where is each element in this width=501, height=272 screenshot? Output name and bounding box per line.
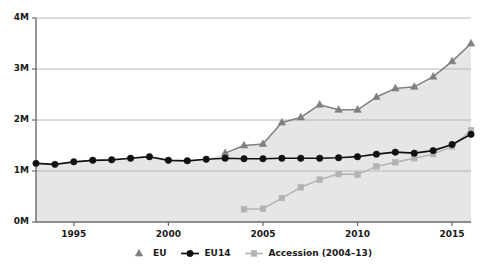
data-point-accession-2004-13 bbox=[374, 164, 380, 170]
data-point-accession-2004-13 bbox=[355, 172, 361, 178]
legend-marker-triangle-icon bbox=[129, 248, 149, 259]
y-axis-tick-label: 0M bbox=[14, 216, 29, 226]
legend-label: EU14 bbox=[204, 249, 230, 258]
x-axis-tick-label: 2015 bbox=[427, 229, 477, 239]
data-point-eu14 bbox=[430, 147, 436, 153]
x-axis-tick-label: 1995 bbox=[49, 229, 99, 239]
legend-marker-square-icon bbox=[244, 248, 264, 259]
legend-item-eu14[interactable]: EU14 bbox=[180, 248, 230, 259]
y-axis-tick-label: 4M bbox=[14, 12, 29, 22]
legend-marker-circle-icon bbox=[180, 248, 200, 259]
chart-legend: EUEU14Accession (2004–13) bbox=[0, 248, 501, 259]
data-point-eu14 bbox=[449, 141, 455, 147]
data-point-accession-2004-13 bbox=[393, 160, 399, 166]
x-axis-tick-label: 2005 bbox=[238, 229, 288, 239]
data-point-eu14 bbox=[298, 155, 304, 161]
legend-item-accession-2004-13[interactable]: Accession (2004–13) bbox=[244, 248, 372, 259]
data-point-eu14 bbox=[203, 156, 209, 162]
data-point-eu14 bbox=[71, 159, 77, 165]
data-point-eu14 bbox=[392, 149, 398, 155]
data-point-eu14 bbox=[184, 158, 190, 164]
data-point-eu14 bbox=[335, 155, 341, 161]
data-point-eu bbox=[316, 101, 323, 108]
data-point-eu14 bbox=[146, 154, 152, 160]
legend-symbol bbox=[135, 249, 142, 256]
data-point-accession-2004-13 bbox=[336, 171, 342, 177]
x-axis-tick-label: 2010 bbox=[333, 229, 383, 239]
data-point-accession-2004-13 bbox=[279, 195, 285, 201]
data-point-eu14 bbox=[260, 156, 266, 162]
data-point-eu14 bbox=[316, 155, 322, 161]
area-fill bbox=[36, 44, 471, 223]
data-point-eu14 bbox=[279, 155, 285, 161]
legend-symbol bbox=[187, 250, 193, 256]
data-point-accession-2004-13 bbox=[317, 177, 323, 183]
data-point-eu14 bbox=[373, 151, 379, 157]
chart-container: EUEU14Accession (2004–13) 0M1M2M3M4M1995… bbox=[0, 0, 501, 272]
data-point-eu14 bbox=[108, 157, 114, 163]
data-point-accession-2004-13 bbox=[260, 206, 266, 212]
data-point-eu14 bbox=[165, 157, 171, 163]
data-point-eu14 bbox=[33, 160, 39, 166]
legend-symbol bbox=[252, 251, 258, 257]
y-axis-tick-label: 2M bbox=[14, 114, 29, 124]
data-point-eu14 bbox=[468, 131, 474, 137]
data-point-accession-2004-13 bbox=[298, 185, 304, 191]
legend-label: Accession (2004–13) bbox=[268, 249, 372, 258]
data-point-eu14 bbox=[52, 161, 58, 167]
legend-item-eu[interactable]: EU bbox=[129, 248, 166, 259]
data-point-eu14 bbox=[241, 156, 247, 162]
data-point-eu14 bbox=[90, 157, 96, 163]
data-point-accession-2004-13 bbox=[241, 206, 247, 212]
y-axis-tick-label: 1M bbox=[14, 165, 29, 175]
data-point-eu14 bbox=[222, 155, 228, 161]
y-axis-tick-label: 3M bbox=[14, 63, 29, 73]
data-point-eu14 bbox=[354, 154, 360, 160]
legend-label: EU bbox=[153, 249, 166, 258]
data-point-eu bbox=[467, 39, 474, 46]
data-point-eu14 bbox=[411, 150, 417, 156]
data-point-eu14 bbox=[127, 155, 133, 161]
x-axis-tick-label: 2000 bbox=[143, 229, 193, 239]
